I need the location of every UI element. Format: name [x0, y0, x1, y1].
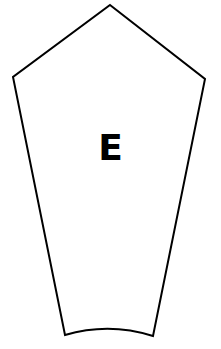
shape-outline — [0, 0, 221, 349]
shape-label: E — [0, 126, 221, 170]
diagram-canvas: E — [0, 0, 221, 349]
pentagon-shape — [13, 5, 205, 336]
